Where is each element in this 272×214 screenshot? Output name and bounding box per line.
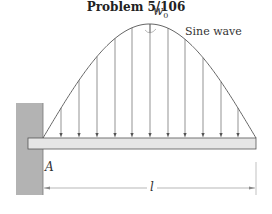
load-arrowhead-icon: [95, 133, 98, 138]
dimension-arrow-left: [44, 187, 50, 190]
sine-wave-label: Sine wave: [185, 25, 242, 38]
length-label: l: [147, 180, 157, 194]
load-arrowhead-icon: [219, 133, 222, 138]
load-arrowhead-icon: [166, 133, 169, 138]
cantilever-beam: [28, 138, 256, 149]
load-arrowhead-icon: [77, 133, 80, 138]
load-arrowhead-icon: [130, 133, 133, 138]
load-arrowhead-icon: [236, 133, 239, 138]
load-arrowhead-icon: [183, 133, 186, 138]
sine-load-curve: [43, 24, 256, 138]
load-intensity-label: w0: [153, 4, 168, 20]
distributed-load-arrows: [59, 24, 239, 137]
load-arrowhead-icon: [113, 133, 116, 138]
load-arrowhead-icon: [148, 133, 151, 138]
peak-angle-arc: [145, 29, 156, 33]
support-label-a: A: [45, 160, 54, 174]
load-arrowhead-icon: [201, 133, 204, 138]
load-arrowhead-icon: [59, 133, 62, 138]
dimension-arrow-right: [249, 187, 255, 190]
